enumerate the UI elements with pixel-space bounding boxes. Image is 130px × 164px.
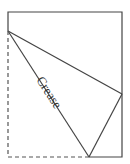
fold-bottom-edge: [89, 94, 122, 157]
fold-top-edge: [8, 31, 122, 94]
crease-label: Crease: [33, 73, 65, 111]
folded-paper-diagram: Crease: [0, 0, 130, 164]
